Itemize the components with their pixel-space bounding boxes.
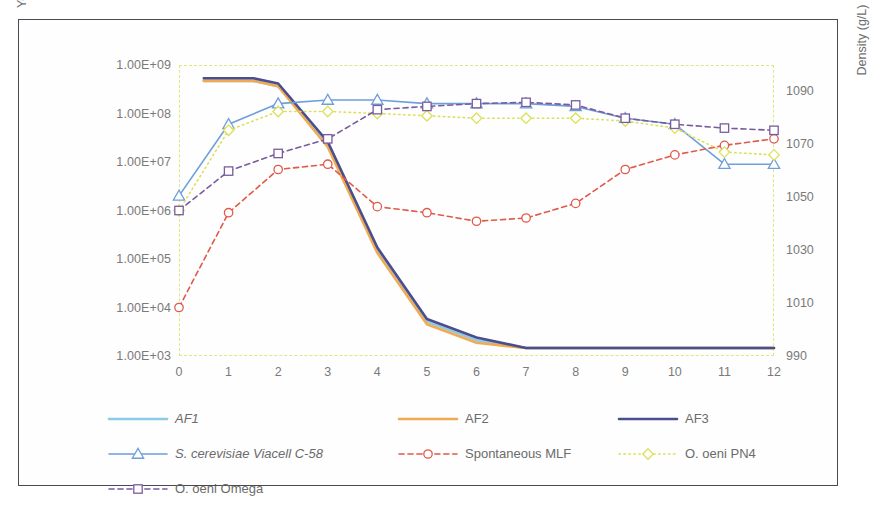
data-point-marker	[769, 150, 780, 161]
chart-legend: AF1AF2AF3S. cerevisiae Viacell C-58Spont…	[107, 401, 807, 506]
legend-row: O. oeni Omega	[107, 471, 807, 506]
legend-marker	[424, 449, 432, 457]
series-1	[204, 81, 774, 348]
legend-item[interactable]: AF1	[107, 401, 199, 436]
legend-row: S. cerevisiae Viacell C-58Spontaneous ML…	[107, 436, 807, 471]
legend-label: S. cerevisiae Viacell C-58	[175, 446, 323, 461]
data-point-marker	[770, 135, 778, 143]
legend-swatch	[397, 412, 459, 426]
x-tick-label: 1	[209, 365, 249, 379]
y-tick-label: 1.00E+09	[79, 58, 171, 72]
series-4	[173, 94, 779, 200]
x-tick-label: 4	[357, 365, 397, 379]
series-2	[204, 81, 774, 348]
data-point-marker	[671, 151, 679, 159]
data-point-marker	[570, 113, 581, 124]
legend-swatch	[107, 412, 169, 426]
series-5	[175, 135, 778, 312]
series-layer	[179, 65, 774, 356]
data-point-marker	[423, 102, 431, 110]
x-tick-label: 5	[407, 365, 447, 379]
data-point-marker	[522, 98, 530, 106]
data-point-marker	[621, 165, 629, 173]
legend-item[interactable]: O. oeni PN4	[617, 436, 756, 471]
chart-figure: Yeast and LAB count (cells/mL) Density (…	[0, 0, 876, 519]
y-tick-label: 1.00E+08	[79, 107, 171, 121]
legend-item[interactable]: Spontaneous MLF	[397, 436, 571, 471]
data-point-marker	[571, 101, 579, 109]
y-tick-label: 1.00E+07	[79, 155, 171, 169]
data-point-marker	[274, 149, 282, 157]
x-tick-label: 7	[506, 365, 546, 379]
data-point-marker	[770, 126, 778, 134]
data-point-marker	[224, 209, 232, 217]
legend-item[interactable]: AF3	[617, 401, 709, 436]
x-tick-label: 10	[655, 365, 695, 379]
legend-item[interactable]: S. cerevisiae Viacell C-58	[107, 436, 323, 471]
x-tick-label: 3	[308, 365, 348, 379]
legend-row: AF1AF2AF3	[107, 401, 807, 436]
legend-marker	[134, 484, 142, 492]
y-tick-label: 1.00E+05	[79, 252, 171, 266]
y2-tick-label: 1030	[786, 243, 836, 257]
legend-swatch	[107, 482, 169, 496]
x-tick-label: 0	[159, 365, 199, 379]
legend-swatch	[617, 412, 679, 426]
data-point-marker	[175, 303, 183, 311]
data-point-marker	[324, 160, 332, 168]
chart-frame: Yeast and LAB count (cells/mL) Density (…	[18, 19, 838, 486]
data-point-marker	[621, 114, 629, 122]
data-point-marker	[373, 105, 381, 113]
data-point-marker	[324, 135, 332, 143]
data-point-marker	[274, 165, 282, 173]
legend-label: AF1	[175, 411, 199, 426]
y-axis-left-title: Yeast and LAB count (cells/mL)	[15, 0, 29, 66]
legend-item[interactable]: O. oeni Omega	[107, 471, 263, 506]
y2-tick-label: 1010	[786, 296, 836, 310]
data-point-marker	[175, 206, 183, 214]
x-tick-label: 9	[605, 365, 645, 379]
data-point-marker	[224, 167, 232, 175]
data-point-marker	[521, 113, 532, 124]
y2-tick-label: 1090	[786, 84, 836, 98]
data-point-marker	[422, 110, 433, 121]
data-point-marker	[472, 99, 480, 107]
x-tick-label: 8	[556, 365, 596, 379]
y2-tick-label: 1050	[786, 190, 836, 204]
data-point-marker	[571, 199, 579, 207]
data-point-marker	[423, 209, 431, 217]
series-6	[174, 106, 780, 216]
legend-label: O. oeni Omega	[175, 481, 263, 496]
x-tick-label: 12	[754, 365, 794, 379]
data-point-marker	[720, 124, 728, 132]
x-tick-label: 11	[704, 365, 744, 379]
y2-tick-label: 1070	[786, 137, 836, 151]
data-point-marker	[522, 214, 530, 222]
legend-label: AF2	[465, 411, 489, 426]
x-tick-label: 2	[258, 365, 298, 379]
y2-tick-label: 990	[786, 349, 836, 363]
y-tick-label: 1.00E+04	[79, 301, 171, 315]
data-point-marker	[671, 120, 679, 128]
legend-swatch	[617, 447, 679, 461]
y-axis-right-title: Density (g/L)	[855, 0, 869, 140]
legend-label: Spontaneous MLF	[465, 446, 571, 461]
legend-swatch	[107, 447, 169, 461]
data-point-marker	[472, 217, 480, 225]
y-tick-label: 1.00E+03	[79, 349, 171, 363]
y-tick-label: 1.00E+06	[79, 204, 171, 218]
legend-marker	[643, 448, 654, 459]
data-point-marker	[323, 106, 334, 117]
legend-label: O. oeni PN4	[685, 446, 756, 461]
plot-area	[179, 65, 774, 356]
data-point-marker	[373, 202, 381, 210]
data-point-marker	[173, 190, 184, 200]
legend-item[interactable]: AF2	[397, 401, 489, 436]
data-point-marker	[471, 113, 482, 124]
x-tick-label: 6	[457, 365, 497, 379]
legend-label: AF3	[685, 411, 709, 426]
legend-swatch	[397, 447, 459, 461]
